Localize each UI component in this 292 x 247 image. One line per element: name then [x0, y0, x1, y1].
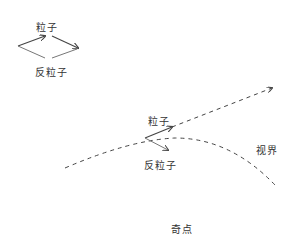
horizon-particle-arrow: [145, 127, 172, 138]
horizon-antiparticle-arrow: [145, 138, 168, 150]
escaping-particle-path: [172, 88, 272, 127]
antiparticle-return-arrow: [52, 49, 77, 58]
diagram-canvas: [0, 0, 292, 247]
antiparticle-arrow: [18, 46, 45, 58]
horizon-antiparticle-label: 反粒子: [144, 157, 177, 172]
horizon-label: 视界: [256, 142, 278, 157]
inset-antiparticle-label: 反粒子: [35, 64, 68, 79]
particle-return-arrow: [52, 36, 78, 48]
pair-creation-inset: [18, 36, 78, 58]
particle-arrow: [18, 36, 45, 46]
horizon-particle-label: 粒子: [148, 113, 170, 128]
inset-particle-label: 粒子: [36, 19, 58, 34]
singularity-label: 奇点: [171, 221, 193, 236]
